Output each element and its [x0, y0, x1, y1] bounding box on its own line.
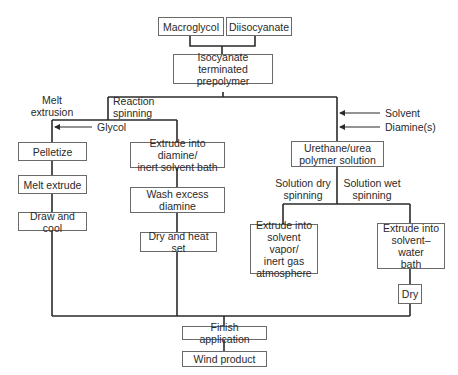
node-extrude-into-diamine: Extrude into diamine/ inert solvent bath [130, 142, 225, 168]
node-melt-extrude: Melt extrude [18, 175, 87, 194]
label-reaction-spinning: Reaction spinning [113, 95, 173, 119]
node-urethane-urea-solution: Urethane/urea polymer solution [291, 141, 384, 167]
node-macroglycol: Macroglycol [158, 17, 224, 36]
node-pelletize: Pelletize [18, 142, 87, 161]
node-dry: Dry [398, 284, 422, 304]
input-diamines: Diamine(s) [385, 121, 436, 133]
node-wind-product: Wind product [182, 351, 267, 367]
node-finish-application: Finish application [182, 326, 267, 340]
node-prepolymer: Isocyanate terminated prepolymer [173, 54, 273, 84]
input-glycol: Glycol [97, 121, 126, 133]
label-solution-dry-spinning: Solution dry spinning [272, 177, 334, 201]
node-wash-excess-diamine: Wash excess diamine [130, 187, 225, 213]
node-draw-and-cool: Draw and cool [18, 212, 87, 231]
input-solvent: Solvent [385, 107, 420, 119]
label-solution-wet-spinning: Solution wet spinning [342, 177, 402, 201]
label-melt-extrusion: Melt extrusion [28, 94, 76, 118]
node-extrude-solvent-vapor: Extrude into solvent vapor/ inert gas at… [250, 224, 318, 274]
node-diisocyanate: Diisocyanate [226, 17, 292, 36]
node-dry-and-heat-set: Dry and heat set [140, 232, 217, 252]
node-extrude-solvent-water: Extrude into solvent–water bath [377, 223, 445, 269]
